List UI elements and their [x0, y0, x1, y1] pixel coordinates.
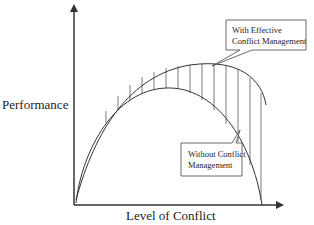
callout-without-text: Without Conflict Management [184, 146, 250, 174]
callout-with-effective-line1: With Effective [232, 25, 306, 36]
callout-without-line2: Management [188, 160, 246, 171]
callout-with-effective-text: With Effective Conflict Management [228, 22, 310, 50]
callout-without-line1: Without Conflict [188, 149, 246, 160]
callout-with-effective-line2: Conflict Management [232, 36, 306, 47]
y-axis-label: Performance [2, 97, 68, 113]
x-axis-label: Level of Conflict [126, 208, 216, 224]
curve-with-effective-conflict-management [76, 64, 266, 200]
hatch-lines [106, 64, 261, 200]
